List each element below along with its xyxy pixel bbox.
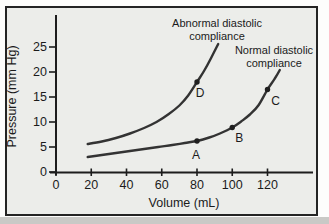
x-tick-label: 80 [182,178,212,192]
label-normal-diastolic-compliance: Normal diastolic compliance [219,44,329,70]
page-shadow-strip [0,217,329,224]
point-C [265,87,270,92]
x-tick-label: 120 [253,178,283,192]
x-axis-title: Volume (mL) [124,196,244,210]
label-normal-line-2: compliance [219,57,329,70]
label-abnormal-line-2: compliance [157,30,277,43]
point-B [230,125,235,130]
label-abnormal-line-1: Abnormal diastolic [157,17,277,30]
curve-normal-diastolic-compliance [88,70,280,157]
y-axis-title: Pressure (mm Hg) [5,32,20,162]
chart-panel: ABCD Pressure (mm Hg) Volume (mL) Abnorm… [5,6,318,216]
y-tick-label: 20 [21,65,47,79]
y-tick-label: 15 [21,90,47,104]
x-tick-label: 20 [76,178,106,192]
x-tick-label: 40 [112,178,142,192]
x-tick-label: 0 [41,178,71,192]
point-A [194,138,199,143]
point-label-C: C [271,94,280,108]
y-tick-label: 25 [21,40,47,54]
point-label-A: A [192,148,200,162]
point-D [194,79,199,84]
label-abnormal-diastolic-compliance: Abnormal diastolic compliance [157,17,277,43]
y-tick-label: 10 [21,115,47,129]
point-label-D: D [196,86,205,100]
label-normal-line-1: Normal diastolic [219,44,329,57]
x-tick-label: 60 [147,178,177,192]
y-tick-label: 0 [21,165,47,179]
x-tick-label: 100 [217,178,247,192]
point-label-B: B [235,131,243,145]
figure-frame: ABCD Pressure (mm Hg) Volume (mL) Abnorm… [0,0,329,224]
y-tick-label: 5 [21,140,47,154]
